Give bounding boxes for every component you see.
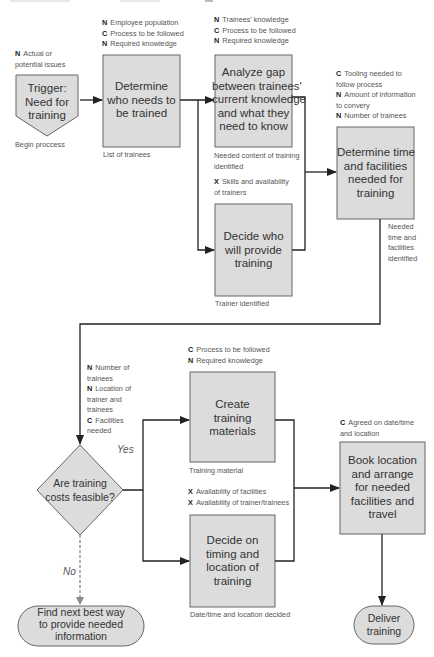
text-line: Need for (16, 96, 78, 110)
text-line: and what they (212, 107, 295, 121)
text-line: will provide (215, 244, 292, 258)
text-line: training (354, 625, 414, 638)
decide-who-inputs: XSkills and availability of trainers (214, 177, 289, 198)
text-line: information (18, 630, 144, 642)
analyze-gap-inputs: NTrainees' knowledge CProcess to be foll… (214, 15, 296, 47)
determine-time-inputs: CTooling needed to follow process NAmoun… (336, 69, 416, 122)
annotation-text: Trainees' knowledge (222, 15, 288, 24)
annotation-text: Amount of information (344, 90, 415, 99)
annotation-text: Required knowledge (222, 36, 289, 45)
decide-who-output: Trainer identified (215, 299, 269, 310)
annotation-text: facilities (388, 243, 417, 254)
text-line: Analyze gap (212, 66, 295, 80)
annotation-text: Needed (388, 222, 417, 233)
yes-label: Yes (117, 444, 134, 455)
code-c: C (87, 416, 92, 425)
find-next-best-label: Find next best way to provide needed inf… (18, 606, 144, 642)
code-x: X (214, 177, 219, 186)
text-line: and facilities (337, 160, 414, 174)
annotation-text: needed (87, 426, 131, 437)
code-n: N (336, 90, 341, 99)
annotation-text: Employee population (110, 18, 178, 27)
costs-inputs: NNumber of trainees NLocation of trainer… (87, 363, 131, 437)
text-line: Determine time (337, 146, 414, 160)
code-c: C (188, 345, 193, 354)
costs-feasible-label: Are training costs feasible? (30, 477, 130, 504)
annotation-text: Agreed on date/time (348, 418, 414, 427)
determine-time-label: Determine time and facilities needed for… (337, 146, 414, 200)
text-line: Decide on (190, 534, 275, 548)
text-line: facilities and (340, 495, 425, 509)
text-line: need to know (212, 120, 295, 134)
annotation-text: trainees (87, 374, 131, 385)
annotation-text: Availability of facilities (196, 487, 266, 496)
annotation-text: Process to be followed (196, 345, 269, 354)
annotation-text: follow process (336, 80, 416, 91)
trigger-output: Begin proccess (15, 140, 65, 151)
text-line: training (215, 257, 292, 271)
code-n: N (188, 356, 193, 365)
code-n: N (102, 39, 107, 48)
code-c: C (336, 69, 341, 78)
analyze-gap-label: Analyze gap between trainees' current kn… (212, 66, 295, 134)
no-label: No (63, 566, 76, 577)
code-x: X (188, 487, 193, 496)
code-n: N (87, 384, 92, 393)
annotation-text: Skills and availability (222, 177, 289, 186)
annotation-text: trainer and (87, 395, 131, 406)
text-line: and arrange (340, 468, 425, 482)
book-location-label: Book location and arrange for needed fac… (340, 454, 425, 522)
decide-timing-label: Decide on timing and location of trainin… (190, 534, 275, 588)
annotation-text: Facilities (95, 416, 123, 425)
code-x: X (188, 498, 193, 507)
deliver-label: Deliver training (354, 612, 414, 637)
text-line: to provide needed (18, 618, 144, 630)
text-line: location of (190, 561, 275, 575)
text-line: needed for (337, 173, 414, 187)
text-line: training (190, 575, 275, 589)
text-line: between trainees' (212, 80, 295, 94)
text-line: who needs to (103, 94, 180, 108)
text-line: Deliver (354, 612, 414, 625)
code-n: N (336, 111, 341, 120)
annotation-text: Needed content of training (214, 151, 300, 162)
text-line: timing and (190, 548, 275, 562)
create-materials-label: Create training materials (190, 398, 275, 439)
annotation-text: Tooling needed to (344, 69, 402, 78)
text-line: Find next best way (18, 606, 144, 618)
create-materials-inputs: CProcess to be followed NRequired knowle… (188, 345, 270, 366)
annotation-text: and location (340, 429, 414, 440)
annotation-text: potential issues (15, 60, 65, 71)
code-n: N (102, 18, 107, 27)
annotation-text: trainees (87, 405, 131, 416)
title-remnant (10, 0, 213, 2)
text-line: Decide who (215, 230, 292, 244)
code-c: C (102, 29, 107, 38)
determine-who-inputs: NEmployee population CProcess to be foll… (102, 18, 184, 50)
code-c: C (214, 26, 219, 35)
code-c: C (340, 418, 345, 427)
annotation-text: time and (388, 233, 417, 244)
book-location-inputs: CAgreed on date/time and location (340, 418, 414, 439)
analyze-gap-output: Needed content of training identified (214, 151, 300, 172)
decide-who-label: Decide who will provide training (215, 230, 292, 271)
text-line: Trigger: (16, 82, 78, 96)
trigger-label: Trigger: Need for training (16, 82, 78, 123)
text-line: be trained (103, 107, 180, 121)
annotation-text: Location of (95, 384, 131, 393)
text-line: Determine (103, 80, 180, 94)
annotation-text: to convery (336, 101, 416, 112)
annotation-text: Required knowledge (110, 39, 177, 48)
text-line: training (190, 412, 275, 426)
text-line: costs feasible? (30, 491, 130, 505)
text-line: materials (190, 425, 275, 439)
text-line: for needed (340, 481, 425, 495)
code-n: N (214, 36, 219, 45)
decide-timing-inputs: XAvailability of facilities XAvailabilit… (188, 487, 289, 508)
text-line: Create (190, 398, 275, 412)
create-materials-output: Training material (189, 466, 243, 477)
determine-who-output: List of trainees (103, 150, 150, 161)
annotation-text: Number of (95, 363, 129, 372)
annotation-text: Process to be followed (110, 29, 183, 38)
annotation-text: identified (388, 254, 417, 265)
